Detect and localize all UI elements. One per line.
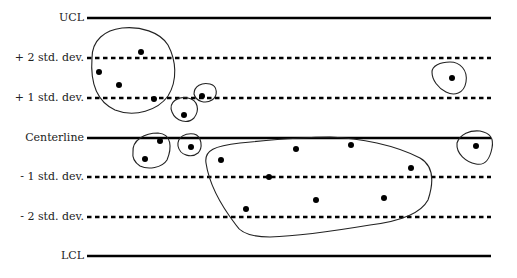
data-point — [313, 197, 319, 203]
data-point — [181, 112, 187, 118]
control-chart — [0, 0, 517, 278]
data-point — [381, 195, 387, 201]
data-point — [199, 93, 205, 99]
cluster-large-lower-group — [206, 137, 432, 237]
cluster-small-group-on-plus1 — [194, 83, 216, 102]
cluster-upper-left-group — [92, 28, 175, 114]
data-point — [243, 206, 249, 212]
data-point — [96, 69, 102, 75]
data-point — [157, 138, 163, 144]
data-point — [151, 96, 157, 102]
data-point — [188, 144, 194, 150]
data-point — [408, 165, 414, 171]
control-lines — [87, 18, 491, 256]
data-point — [138, 49, 144, 55]
data-point — [116, 82, 122, 88]
data-points — [96, 49, 479, 212]
data-point — [218, 157, 224, 163]
data-point — [142, 156, 148, 162]
data-point — [348, 142, 354, 148]
data-point — [293, 146, 299, 152]
data-point — [266, 174, 272, 180]
data-point — [473, 143, 479, 149]
data-point — [449, 75, 455, 81]
